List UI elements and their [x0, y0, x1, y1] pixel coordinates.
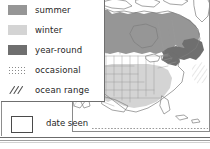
date-seen-row: date seen [1, 112, 208, 136]
winter-swatch [8, 25, 27, 35]
legend-label-year-round: year-round [35, 46, 82, 55]
legend-item-year-round: year-round [1, 40, 104, 60]
legend-label-winter: winter [35, 26, 62, 35]
diagonal-hatch-icon [8, 85, 27, 95]
legend-item-winter: winter [1, 20, 104, 40]
date-seen-label: date seen [46, 119, 88, 128]
legend-item-occasional: occasional [1, 60, 104, 80]
legend-label-summer: summer [35, 6, 71, 15]
footer-rule-primary [0, 137, 210, 138]
legend-panel: summer winter year-round occasional [1, 0, 105, 102]
date-seen-checkbox[interactable] [11, 116, 33, 133]
range-map-figure: summer winter year-round occasional [0, 0, 210, 149]
legend-items: summer winter year-round occasional [1, 0, 104, 100]
footer-rule-secondary [0, 140, 210, 141]
legend-item-summer: summer [1, 0, 104, 20]
year-round-swatch [8, 45, 27, 55]
date-seen-write-in-line[interactable] [92, 128, 208, 129]
occasional-swatch [8, 65, 27, 75]
footer-rule-tertiary [0, 142, 210, 143]
legend-item-ocean-range: ocean range [1, 80, 104, 100]
summer-swatch [8, 5, 27, 15]
ocean-range-swatch [8, 85, 27, 95]
legend-label-occasional: occasional [35, 66, 81, 75]
legend-label-ocean-range: ocean range [35, 86, 89, 95]
